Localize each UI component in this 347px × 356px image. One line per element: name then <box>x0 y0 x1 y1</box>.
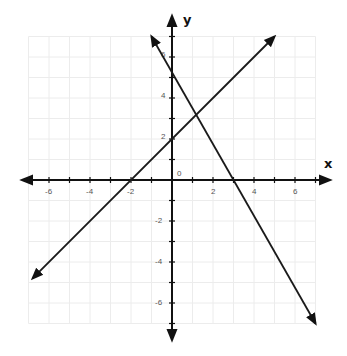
y-tick-label: -4 <box>155 257 163 266</box>
x-tick-label: 4 <box>252 187 257 196</box>
x-tick-label: -6 <box>45 187 53 196</box>
line-increasing <box>33 37 275 279</box>
x-tick-label: -2 <box>127 187 135 196</box>
x-axis-label: x <box>324 156 333 171</box>
origin-label: 0 <box>177 169 182 178</box>
y-tick-labels: 6 4 2 -2 -4 -6 <box>155 50 166 307</box>
y-tick-label: -6 <box>155 298 163 307</box>
y-tick-label: 2 <box>161 132 166 141</box>
y-tick-label: 4 <box>161 91 166 100</box>
coordinate-plane-chart: -6 -4 -2 2 4 6 6 4 2 -2 -4 -6 0 x y <box>0 0 347 356</box>
x-tick-label: 6 <box>293 187 298 196</box>
y-tick-label: -2 <box>155 216 163 225</box>
x-tick-label: -4 <box>86 187 94 196</box>
x-tick-label: 2 <box>211 187 216 196</box>
y-axis-label: y <box>183 12 192 27</box>
